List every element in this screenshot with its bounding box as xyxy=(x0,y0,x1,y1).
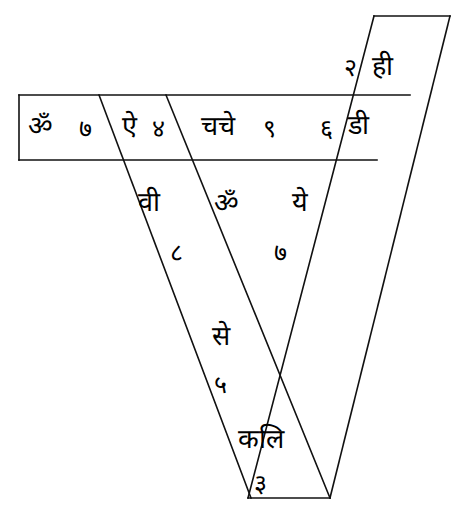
right-diagonal-band xyxy=(248,16,450,498)
left-band-left-edge xyxy=(99,95,251,498)
right-band-right-edge xyxy=(330,16,450,498)
diagram-canvas: २ ही ॐ ७ ऐ ४ चचे ९ ६ डी वी ८ ॐ ये ७ से ५… xyxy=(0,0,460,524)
right-band-left-edge xyxy=(248,16,374,498)
left-diagonal-band xyxy=(99,95,330,498)
left-band-right-edge xyxy=(166,95,330,498)
figure-outline xyxy=(0,0,460,524)
